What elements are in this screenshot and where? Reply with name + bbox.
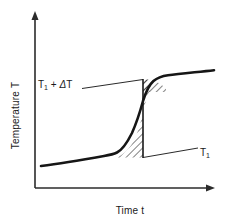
delta-target-symbol: T [66,79,72,90]
plot-canvas [0,0,250,224]
lower-asymptote-reference-line [143,148,198,158]
lower-level-subscript: 1 [206,152,210,159]
upper-level-label: T1 + ΔT [38,79,72,91]
lower-level-label: T1 [200,147,210,159]
y-axis-label: Temperature T [10,56,21,176]
temperature-axis-arrow-icon [32,11,39,20]
time-axis-arrow-icon [206,185,215,192]
thermal-analysis-diagram: Temperature T Time t T1 + ΔT T1 [0,0,250,224]
upper-level-plus: + [48,79,59,90]
x-axis-label: Time t [95,205,165,216]
upper-asymptote-reference-line [82,80,143,89]
